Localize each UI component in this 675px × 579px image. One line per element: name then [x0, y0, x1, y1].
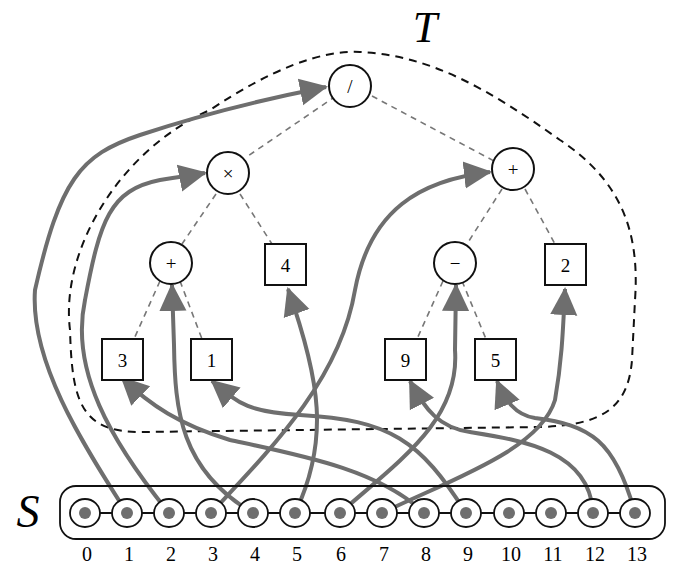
index-label: 8 [421, 543, 431, 565]
operator-symbol: × [223, 163, 234, 184]
leaf-3: 3 [102, 339, 143, 380]
operand-value: 4 [281, 255, 291, 276]
leaf-1: 1 [191, 339, 232, 380]
sequence-cell-7 [367, 499, 397, 527]
index-label: 5 [292, 543, 302, 565]
index-label: 1 [124, 543, 134, 565]
leaf-5: 5 [475, 339, 516, 380]
leaf-4: 4 [265, 244, 306, 285]
index-label: 2 [166, 543, 176, 565]
sequence-cell-10 [494, 499, 524, 527]
map-6-minus [340, 285, 456, 513]
sequence-cell-5 [280, 499, 310, 527]
index-label: 9 [463, 543, 473, 565]
map-1-root [35, 87, 326, 513]
operand-value: 2 [561, 255, 571, 276]
tree-edges [134, 96, 555, 339]
tree-label: T [413, 3, 441, 52]
sequence-cell-13 [620, 499, 650, 527]
map-3-plus-right [211, 172, 490, 513]
sequence-cell-9 [451, 499, 481, 527]
mapping-arrows [35, 87, 635, 513]
index-label: 10 [501, 543, 521, 565]
operand-value: 1 [207, 350, 217, 371]
operand-value: 3 [118, 350, 128, 371]
map-5-leaf-4 [288, 289, 317, 513]
index-label: 11 [543, 543, 562, 565]
sequence-cell-2 [154, 499, 184, 527]
index-label: 12 [585, 543, 605, 565]
sequence-cell-6 [325, 499, 355, 527]
node-plus-left: + [150, 242, 192, 284]
map-7-leaf-2 [382, 289, 565, 513]
index-label: 3 [208, 543, 218, 565]
index-label: 7 [379, 543, 389, 565]
sequence-index-labels: 0 1 2 3 4 5 6 7 8 9 10 11 12 13 [82, 543, 647, 565]
index-label: 6 [336, 543, 346, 565]
operator-symbol: / [347, 76, 353, 97]
index-label: 4 [250, 543, 260, 565]
sequence-cell-0 [70, 499, 100, 527]
map-12-leaf-9 [410, 381, 593, 513]
node-root: / [329, 65, 371, 107]
leaf-2: 2 [545, 244, 586, 285]
leaf-9: 9 [385, 339, 426, 380]
sequence-cell-12 [578, 499, 608, 527]
operator-symbol: + [508, 159, 519, 180]
sequence-cell-4 [238, 499, 268, 527]
sequence-cell-11 [536, 499, 566, 527]
operand-value: 5 [491, 350, 501, 371]
tree-boundary [69, 52, 636, 432]
sequence-cell-8 [409, 499, 439, 527]
tree-sequence-diagram: / × + + − 4 2 3 1 9 5 T S [0, 0, 675, 579]
operand-value: 9 [401, 350, 411, 371]
operator-symbol: − [450, 253, 461, 274]
node-plus-right: + [492, 148, 534, 190]
index-label: 13 [627, 543, 647, 565]
sequence-cell-3 [196, 499, 226, 527]
operator-symbol: + [166, 253, 177, 274]
sequence-label: S [17, 486, 40, 537]
node-times: × [207, 152, 249, 194]
node-minus: − [434, 242, 476, 284]
index-label: 0 [82, 543, 92, 565]
sequence-cell-1 [112, 499, 142, 527]
